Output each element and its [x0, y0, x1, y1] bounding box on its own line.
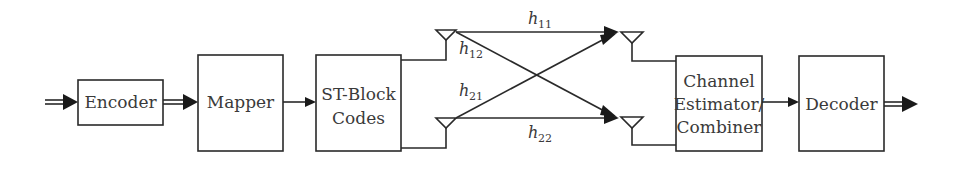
channel-est-label-line1: Channel [683, 71, 755, 91]
mimo-stbc-block-diagram: Encoder Mapper ST-Block Codes [0, 0, 967, 172]
tx-antenna-1-icon [401, 30, 456, 60]
svg-text:12: 12 [469, 48, 483, 61]
encoder-block: Encoder [78, 80, 163, 125]
decoder-block: Decoder [799, 56, 884, 151]
st-block-label-line2: Codes [332, 108, 385, 128]
st-block-label-line1: ST-Block [321, 84, 396, 104]
input-double-arrow [45, 94, 78, 110]
rx-antenna-1-icon [621, 32, 676, 61]
encoder-to-mapper-double-arrow [163, 94, 198, 110]
channel-est-label-line2: Estimator/ [674, 94, 765, 114]
label-h11: h 11 [528, 9, 552, 31]
channel-est-label-line3: Combiner [677, 117, 763, 137]
label-h12: h 12 [459, 39, 483, 61]
svg-text:h: h [459, 39, 469, 58]
svg-text:22: 22 [538, 132, 552, 145]
label-h21: h 21 [459, 81, 483, 103]
encoder-label: Encoder [84, 92, 157, 112]
svg-text:h: h [528, 123, 538, 142]
svg-text:h: h [528, 9, 538, 28]
decoder-label: Decoder [805, 94, 878, 114]
tx-antenna-2-icon [401, 118, 456, 148]
mapper-block: Mapper [198, 55, 283, 151]
mapper-label: Mapper [207, 92, 275, 112]
channel-estimator-combiner-block: Channel Estimator/ Combiner [674, 56, 765, 151]
rx-antenna-2-icon [621, 117, 676, 145]
svg-text:21: 21 [469, 90, 483, 103]
combiner-to-decoder-arrow [762, 97, 799, 107]
svg-text:11: 11 [538, 18, 552, 31]
st-block-codes-block: ST-Block Codes [316, 55, 401, 151]
svg-text:h: h [459, 81, 469, 100]
mapper-to-stblock-arrow [283, 97, 316, 107]
output-double-arrow [884, 96, 918, 112]
label-h22: h 22 [528, 123, 552, 145]
